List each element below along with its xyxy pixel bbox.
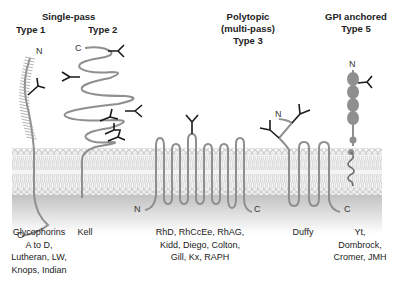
caption-line: Glycophorins xyxy=(10,226,68,239)
glycan-icon xyxy=(358,76,372,88)
caption-line: Lutheran, LW, xyxy=(10,251,68,264)
caption-line: RhD, RhCcEe, RhAG, xyxy=(150,226,250,239)
caption-line: Kidd, Diego, Colton, xyxy=(150,239,250,252)
caption-line: Kell xyxy=(74,226,96,239)
header-polytopic: Polytopic (multi-pass) Type 3 xyxy=(218,11,278,47)
header-gpi-line1: GPI anchored xyxy=(321,11,391,23)
diagram-canvas: Single-pass Type 1 Type 2 Polytopic (mul… xyxy=(0,0,395,282)
sugar-bristle xyxy=(19,98,29,100)
caption-duffy: Duffy xyxy=(288,226,318,239)
glycan-icon xyxy=(186,115,198,134)
caption-type1: Glycophorins A to D, Lutheran, LW, Knops… xyxy=(10,226,68,276)
sugar-bristle xyxy=(25,131,35,133)
duffy-c-terminus: C xyxy=(344,204,351,214)
header-gpi: GPI anchored Type 5 xyxy=(321,11,391,35)
sugar-bristle xyxy=(19,96,29,98)
sugar-bristle xyxy=(19,101,29,103)
gpi-domain-beads xyxy=(347,72,359,155)
glycan-icon xyxy=(28,78,45,95)
glycan-icon xyxy=(125,105,142,117)
header-polytopic-line2: (multi-pass) xyxy=(218,23,278,35)
sugar-bristle xyxy=(27,137,37,139)
type1-glycan-brush xyxy=(19,57,36,139)
type1-n-terminus: N xyxy=(36,46,43,56)
caption-line: Gill, Kx, RAPH xyxy=(150,251,250,264)
caption-type2: Kell xyxy=(74,226,96,239)
type3-c-terminus: C xyxy=(254,204,261,214)
caption-line: Dombrock, xyxy=(330,239,390,252)
gpi-n-terminus: N xyxy=(349,59,356,69)
type3-n-terminus: N xyxy=(134,204,141,214)
header-type1: Type 1 xyxy=(16,24,45,36)
glycan-icon xyxy=(260,120,279,138)
caption-line: Cromer, JMH xyxy=(330,251,390,264)
caption-line: Duffy xyxy=(288,226,318,239)
caption-line: Yt, xyxy=(330,226,390,239)
caption-type3: RhD, RhCcEe, RhAG, Kidd, Diego, Colton, … xyxy=(150,226,250,264)
duffy-n-terminus: N xyxy=(275,109,282,119)
type2-c-terminus: C xyxy=(75,43,82,53)
sugar-bristle xyxy=(26,134,36,136)
header-type5: Type 5 xyxy=(321,23,391,35)
caption-line: Knops, Indian xyxy=(10,264,68,277)
glycan-icon xyxy=(292,104,310,123)
header-polytopic-line1: Polytopic xyxy=(218,11,278,23)
caption-type5: Yt, Dombrock, Cromer, JMH xyxy=(330,226,390,264)
header-type2: Type 2 xyxy=(88,24,117,36)
caption-line: A to D, xyxy=(10,239,68,252)
header-single-pass: Single-pass xyxy=(42,11,95,23)
glycan-icon xyxy=(62,72,80,81)
header-type3: Type 3 xyxy=(218,35,278,47)
